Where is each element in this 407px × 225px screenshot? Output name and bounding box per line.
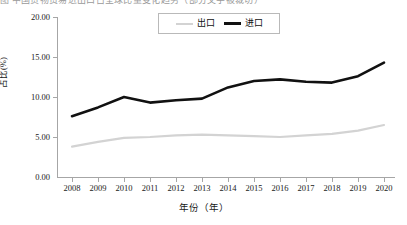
legend-swatch-import-icon bbox=[224, 22, 241, 25]
chart-figure: 图 中国货物贸易进出口占全球比重变化趋势（部分文字被裁切） 20.00 15.0… bbox=[0, 0, 407, 225]
legend-item-export[interactable]: 出口 bbox=[176, 19, 215, 28]
line-series-import bbox=[72, 63, 384, 117]
legend-label-import: 进口 bbox=[245, 19, 263, 28]
line-series-export bbox=[72, 125, 384, 147]
chart-legend: 出口 进口 bbox=[158, 13, 280, 34]
legend-item-import[interactable]: 进口 bbox=[224, 19, 263, 28]
legend-swatch-export-icon bbox=[176, 23, 193, 25]
legend-label-export: 出口 bbox=[197, 19, 215, 28]
